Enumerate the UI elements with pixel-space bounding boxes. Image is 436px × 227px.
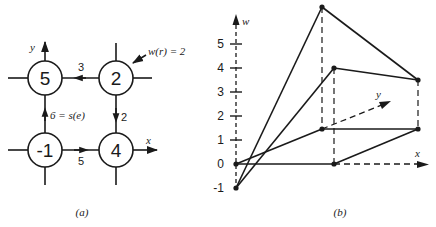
y-axis-label: y xyxy=(375,88,381,100)
panel-b-labels: 5 4 3 2 1 0 -1 w x y (b) xyxy=(213,15,420,219)
edge-label: 3 xyxy=(78,61,84,73)
y-axis-label: y xyxy=(29,41,35,53)
node-value: 4 xyxy=(111,140,122,161)
annotation-label: w(r) = 2 xyxy=(148,45,186,58)
edge-label: 5 xyxy=(78,155,84,167)
tick-label: 4 xyxy=(217,61,224,75)
figure-canvas: 5 2 -1 4 3 2 6 = s(e) 5 w(r) = 2 y x (a) xyxy=(0,0,436,227)
data-points xyxy=(233,4,420,190)
annotation-pointer xyxy=(133,55,146,63)
x-axis-label: x xyxy=(145,134,151,146)
caption-b: (b) xyxy=(334,206,347,219)
panel-b xyxy=(230,4,429,190)
base-plane xyxy=(236,129,418,164)
tick-label: 0 xyxy=(217,157,224,171)
node-value: 2 xyxy=(111,68,122,89)
tick-label: 2 xyxy=(217,109,224,123)
y-axis xyxy=(322,104,384,129)
node-value: 5 xyxy=(40,68,51,89)
tick-label: -1 xyxy=(213,181,224,195)
surface xyxy=(236,7,418,188)
y-axis-arrow-icon xyxy=(379,101,391,109)
caption-a: (a) xyxy=(76,206,89,219)
tick-label: 1 xyxy=(217,133,224,147)
x-axis-label: x xyxy=(414,147,420,159)
x-axis-arrow-icon xyxy=(417,161,429,168)
tick-label: 5 xyxy=(217,37,224,51)
edge-label: 2 xyxy=(121,111,127,123)
w-axis-label: w xyxy=(242,15,250,27)
w-axis-arrow-icon xyxy=(233,14,240,25)
node-value: -1 xyxy=(37,140,54,161)
edge-label: 6 = s(e) xyxy=(50,109,85,122)
tick-label: 3 xyxy=(217,85,224,99)
